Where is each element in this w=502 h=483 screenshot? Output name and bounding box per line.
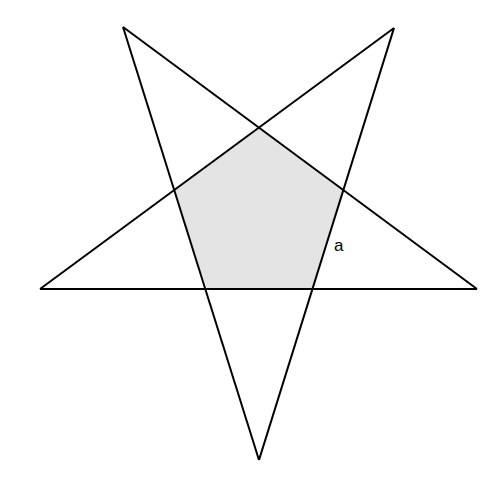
side-label-a: a (334, 236, 344, 255)
pentagram-diagram: a (0, 0, 502, 483)
shaded-inner-pentagon (174, 127, 343, 289)
